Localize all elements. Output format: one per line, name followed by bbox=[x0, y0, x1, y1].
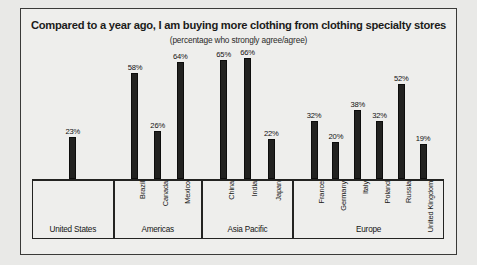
bar-rect bbox=[177, 62, 184, 179]
country-tick-label: China bbox=[227, 181, 236, 200]
country-tick-label: India bbox=[250, 181, 259, 197]
bar-rect bbox=[398, 84, 405, 179]
bar: 52% bbox=[398, 84, 405, 179]
bar-rect bbox=[131, 73, 138, 179]
country-tick-label: Russia bbox=[404, 181, 413, 203]
country-tick-label: Canada bbox=[161, 181, 170, 206]
bar: 65% bbox=[220, 60, 227, 179]
bar-rect bbox=[332, 142, 339, 179]
group-label: Americas bbox=[115, 225, 201, 234]
bar-value-label: 22% bbox=[264, 129, 279, 138]
country-tick-label: Italy bbox=[361, 181, 370, 194]
bar-value-label: 19% bbox=[416, 134, 431, 143]
bar-rect bbox=[69, 137, 76, 179]
bar: 22% bbox=[268, 139, 275, 179]
bar-value-label: 38% bbox=[350, 100, 365, 109]
bar: 20% bbox=[332, 142, 339, 179]
group-label: United States bbox=[33, 225, 113, 234]
plot-area: 23%58%26%64%65%66%22%32%20%38%32%52%19% bbox=[32, 51, 444, 179]
bar-rect bbox=[376, 121, 383, 180]
bar: 19% bbox=[420, 144, 427, 179]
chart-figure: Compared to a year ago, I am buying more… bbox=[20, 8, 457, 255]
bar-value-label: 26% bbox=[150, 121, 165, 130]
chart-title-block: Compared to a year ago, I am buying more… bbox=[21, 19, 456, 45]
bar: 32% bbox=[311, 121, 318, 180]
bar-value-label: 32% bbox=[307, 111, 322, 120]
group-label: Asia Pacific bbox=[203, 225, 292, 234]
bar-rect bbox=[354, 110, 361, 179]
chart-title: Compared to a year ago, I am buying more… bbox=[21, 19, 456, 32]
bar-rect bbox=[311, 121, 318, 180]
bar: 66% bbox=[244, 58, 251, 179]
bar-rect bbox=[244, 58, 251, 179]
bar-rect bbox=[420, 144, 427, 179]
bar-value-label: 58% bbox=[128, 63, 143, 72]
country-tick-label: France bbox=[317, 181, 326, 203]
bar-value-label: 20% bbox=[329, 132, 344, 141]
bar: 58% bbox=[131, 73, 138, 179]
bar: 64% bbox=[177, 62, 184, 179]
country-tick-label: Mexico bbox=[183, 181, 192, 204]
bar: 26% bbox=[154, 131, 161, 179]
bar-value-label: 52% bbox=[394, 74, 409, 83]
bar-value-label: 65% bbox=[216, 50, 231, 59]
country-tick-label: Japan bbox=[274, 181, 283, 201]
bar-value-label: 64% bbox=[173, 52, 188, 61]
bar-value-label: 32% bbox=[372, 111, 387, 120]
bar: 32% bbox=[376, 121, 383, 180]
bar-rect bbox=[220, 60, 227, 179]
bar: 38% bbox=[354, 110, 361, 179]
country-tick-label: United Kingdom bbox=[426, 181, 435, 232]
group-box-united-states: United States bbox=[32, 179, 114, 239]
chart-subtitle: (percentage who strongly agree/agree) bbox=[21, 35, 456, 45]
bar-rect bbox=[154, 131, 161, 179]
bar-rect bbox=[268, 139, 275, 179]
country-tick-label: Brazil bbox=[138, 181, 147, 199]
category-group-band: United StatesAmericasBrazilCanadaMexicoA… bbox=[32, 179, 444, 239]
group-label: Europe bbox=[294, 225, 443, 234]
country-tick-label: Germany bbox=[339, 181, 348, 211]
bar: 23% bbox=[69, 137, 76, 179]
country-tick-label: Poland bbox=[383, 181, 392, 203]
bar-value-label: 66% bbox=[240, 48, 255, 57]
bar-value-label: 23% bbox=[65, 127, 80, 136]
